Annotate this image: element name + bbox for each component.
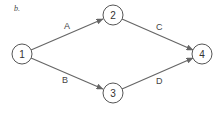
edge-label-c: C [156, 22, 163, 32]
node-label-4: 4 [199, 49, 205, 60]
node-2: 2 [103, 5, 123, 25]
node-1: 1 [12, 44, 32, 64]
edge-c: C [122, 19, 193, 50]
node-label-3: 3 [110, 88, 116, 99]
node-3: 3 [103, 83, 123, 103]
edge-label-b: B [62, 75, 68, 85]
edge-a: A [31, 19, 103, 50]
network-diagram: A B C D 1 2 3 4 [0, 0, 219, 113]
node-4: 4 [192, 44, 212, 64]
edge-b: B [31, 58, 103, 89]
node-label-2: 2 [110, 10, 116, 21]
edge-label-d: D [156, 76, 163, 86]
edge-label-a: A [64, 21, 70, 31]
node-label-1: 1 [19, 49, 25, 60]
edge-d: D [122, 58, 193, 89]
